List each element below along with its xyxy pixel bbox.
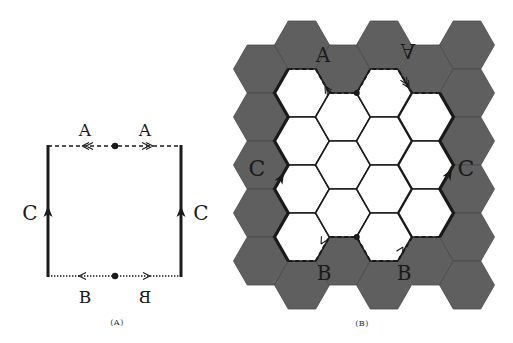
label-b-right-mirrored: B	[139, 287, 152, 307]
white-hex-tiles	[275, 69, 454, 261]
caption-a: (A)	[110, 318, 124, 327]
panel-b: A A C C B B (B)	[234, 21, 495, 328]
label-c-left: C	[249, 156, 266, 181]
caption-b: (B)	[355, 319, 369, 328]
label-a-right: A	[138, 120, 152, 140]
label-c-left: C	[22, 201, 37, 225]
label-a-right-flipped: A	[400, 39, 416, 63]
label-a-left: A	[315, 43, 331, 67]
figure: A A C C B B (A)	[0, 0, 513, 343]
label-b-left: B	[79, 287, 92, 307]
midpoint-dot-bottom	[112, 273, 118, 279]
midpoint-dot-top	[354, 90, 360, 96]
label-c-right: C	[193, 201, 208, 225]
midpoint-dot-bottom	[354, 234, 360, 240]
label-b-left: B	[317, 261, 332, 285]
label-b-right: B	[397, 261, 412, 285]
panel-a: A A C C B B (A)	[22, 120, 208, 327]
label-c-right: C	[458, 156, 475, 181]
label-a-left: A	[78, 120, 92, 140]
midpoint-dot-top	[112, 143, 118, 149]
